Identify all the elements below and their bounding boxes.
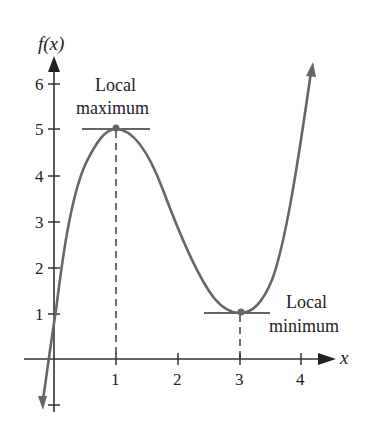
x-axis-arrow-icon	[318, 353, 336, 365]
local-max-label-line2: maximum	[76, 98, 149, 118]
y-tick-label: 6	[35, 75, 44, 94]
local-max-label-line1: Local	[95, 75, 136, 95]
y-tick-label: 2	[35, 259, 44, 278]
x-tick-label: 4	[296, 370, 305, 389]
y-axis-arrow-icon	[48, 56, 60, 72]
x-axis-title: x	[339, 347, 349, 368]
y-tick-label: 1	[35, 305, 44, 324]
function-curve	[43, 72, 311, 400]
y-tick-label: 4	[35, 167, 44, 186]
y-axis-title: f(x)	[38, 33, 64, 55]
chart: 6 5 4 3 2 1 1 2 3 4 f(x) x Local maximum…	[0, 0, 370, 439]
curve-arrow-up-icon	[306, 62, 316, 77]
y-tick-label: 5	[35, 120, 44, 139]
local-min-label-line2: minimum	[269, 316, 339, 336]
local-min-label-line1: Local	[286, 292, 327, 312]
local-max-point	[113, 125, 120, 132]
x-tick-label: 2	[173, 370, 182, 389]
x-tick-label: 3	[235, 370, 244, 389]
x-tick-label: 1	[111, 370, 120, 389]
y-tick-label: 3	[35, 213, 44, 232]
curve-arrow-down-icon	[38, 396, 47, 410]
local-min-point	[238, 309, 245, 316]
